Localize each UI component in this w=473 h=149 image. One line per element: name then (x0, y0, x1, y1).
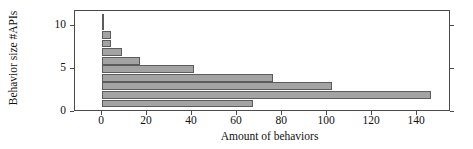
x-axis-tick-label: 140 (396, 114, 436, 127)
y-axis-tick (70, 68, 74, 69)
bar (102, 22, 104, 30)
x-axis-tick-label: 20 (126, 114, 166, 127)
bar (102, 40, 111, 48)
x-axis-tick-label: 0 (81, 114, 121, 127)
x-axis-tick-label: 120 (351, 114, 391, 127)
bar (102, 48, 122, 56)
bar (102, 82, 332, 90)
bar (102, 14, 104, 22)
x-axis-tick-label: 80 (261, 114, 301, 127)
y-axis-tick (70, 111, 74, 112)
bar (102, 57, 140, 65)
bar (102, 74, 273, 82)
plot-area (74, 10, 450, 111)
x-axis-tick-label: 40 (171, 114, 211, 127)
bar (102, 31, 111, 39)
bar (102, 91, 431, 99)
y-axis-tick (70, 25, 74, 26)
x-axis-tick-label: 60 (216, 114, 256, 127)
y-axis-tick-right (450, 68, 454, 69)
y-axis-tick-label: 5 (34, 61, 66, 74)
bar (102, 65, 194, 73)
x-axis-title: Amount of behaviors (89, 130, 450, 142)
bar-chart-figure: Behavior size #APIs 02040608010012014005… (0, 0, 473, 149)
y-axis-title: Behavior size #APIs (7, 0, 19, 117)
y-axis-tick-right (450, 111, 454, 112)
y-axis-tick-label: 10 (34, 18, 66, 31)
bar (102, 100, 253, 108)
y-axis-tick-right (450, 25, 454, 26)
y-axis-tick-label: 0 (34, 104, 66, 117)
x-axis-tick-label: 100 (306, 114, 346, 127)
